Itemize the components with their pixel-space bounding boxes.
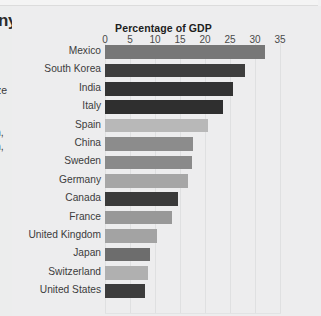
bar-row: Japan: [105, 245, 280, 263]
bar-row: Sweden: [105, 153, 280, 171]
category-label-3: Italy: [82, 99, 101, 113]
bar-row: Italy: [105, 98, 280, 116]
gridline-7: [280, 43, 281, 313]
category-label-12: Switzerland: [48, 265, 101, 279]
x-axis-baseline: [105, 313, 281, 314]
category-label-10: United Kingdom: [29, 228, 102, 242]
bar-row: Canada: [105, 190, 280, 208]
bar-row: Switzerland: [105, 264, 280, 282]
article-body-fragment-2: n,: [0, 126, 4, 138]
bar-5: [105, 137, 193, 151]
category-label-1: South Korea: [44, 62, 101, 76]
category-label-13: United States: [40, 283, 101, 297]
bar-row: Germany: [105, 172, 280, 190]
bar-row: China: [105, 135, 280, 153]
bar-row: United Kingdom: [105, 227, 280, 245]
page-canvas: ny ze n, n, f t s al. Percentage of GDP …: [0, 0, 321, 316]
category-label-2: India: [79, 81, 101, 95]
bar-8: [105, 192, 178, 206]
bar-11: [105, 248, 150, 262]
category-label-9: France: [69, 210, 101, 224]
category-label-11: Japan: [73, 246, 101, 260]
bar-0: [105, 45, 265, 59]
category-label-6: Sweden: [64, 154, 101, 168]
bar-6: [105, 156, 192, 170]
bar-10: [105, 229, 157, 243]
bar-row: India: [105, 80, 280, 98]
bar-9: [105, 211, 172, 225]
bar-row: Spain: [105, 117, 280, 135]
bar-7: [105, 174, 188, 188]
bar-4: [105, 119, 208, 133]
category-label-0: Mexico: [69, 44, 101, 58]
bar-chart-figure: Percentage of GDP 05101520253035 MexicoS…: [12, 6, 321, 316]
bar-row: France: [105, 209, 280, 227]
bar-rows: MexicoSouth KoreaIndiaItalySpainChinaSwe…: [105, 43, 280, 313]
category-label-5: China: [74, 136, 101, 150]
bar-row: Mexico: [105, 43, 280, 61]
plot-area: MexicoSouth KoreaIndiaItalySpainChinaSwe…: [105, 43, 280, 313]
chart-title: Percentage of GDP: [12, 22, 315, 34]
bar-row: United States: [105, 282, 280, 300]
bar-row: South Korea: [105, 61, 280, 79]
bar-13: [105, 284, 145, 298]
category-label-7: Germany: [59, 173, 101, 187]
category-label-4: Spain: [75, 118, 101, 132]
article-body-fragment-1: ze: [0, 84, 7, 96]
article-body-fragment-3: n,: [0, 140, 4, 152]
category-label-8: Canada: [65, 191, 101, 205]
bar-2: [105, 82, 233, 96]
bar-1: [105, 64, 245, 78]
bar-3: [105, 100, 223, 114]
bar-12: [105, 266, 148, 280]
